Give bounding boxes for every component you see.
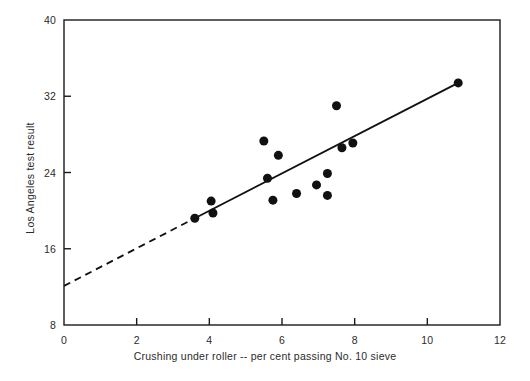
data-point xyxy=(323,169,332,178)
data-point xyxy=(268,196,277,205)
data-point xyxy=(337,143,346,152)
x-axis-ticks xyxy=(137,318,428,325)
regression-line-dashed xyxy=(64,218,195,286)
data-point xyxy=(207,197,216,206)
plot-canvas xyxy=(0,0,530,381)
data-point xyxy=(312,180,321,189)
data-point xyxy=(332,101,341,110)
x-tick-label: 2 xyxy=(134,334,140,346)
data-point xyxy=(454,78,463,87)
y-tick-label: 8 xyxy=(28,319,56,331)
x-axis-title: Crushing under roller -- per cent passin… xyxy=(0,350,530,362)
data-point xyxy=(190,214,199,223)
scatter-chart-figure: 816243240 024681012 Los Angeles test res… xyxy=(0,0,530,381)
x-tick-label: 0 xyxy=(61,334,67,346)
data-point xyxy=(348,138,357,147)
y-tick-label: 40 xyxy=(28,14,56,26)
data-point xyxy=(274,151,283,160)
x-tick-label: 8 xyxy=(352,334,358,346)
x-tick-label: 4 xyxy=(206,334,212,346)
data-point xyxy=(208,209,217,218)
data-point xyxy=(323,191,332,200)
x-tick-label: 6 xyxy=(279,334,285,346)
data-point xyxy=(259,137,268,146)
data-point xyxy=(263,174,272,183)
x-tick-label: 12 xyxy=(494,334,506,346)
y-axis-ticks xyxy=(64,96,71,249)
regression-line xyxy=(64,83,458,286)
x-tick-label: 10 xyxy=(421,334,433,346)
data-point xyxy=(292,189,301,198)
y-axis-title: Los Angeles test result xyxy=(24,78,36,278)
